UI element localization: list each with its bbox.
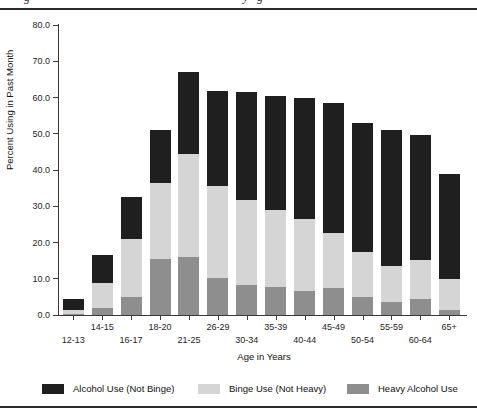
x-tick-label: 18-20 bbox=[140, 322, 180, 332]
y-tick-label: 60.0 bbox=[20, 93, 50, 103]
bar-segment bbox=[294, 291, 315, 315]
x-tick-label: 14-15 bbox=[82, 322, 122, 332]
y-tick-mark bbox=[53, 242, 58, 243]
bar-segment bbox=[352, 123, 373, 252]
y-axis-title: Percent Using in Past Month bbox=[4, 50, 15, 170]
dark-gray-swatch-icon bbox=[347, 384, 369, 394]
x-tick-mark bbox=[391, 316, 392, 320]
legend-item-heavy-alcohol: Heavy Alcohol Use bbox=[347, 383, 458, 394]
x-tick-label: 35-39 bbox=[256, 322, 296, 332]
x-tick-mark bbox=[305, 316, 306, 320]
y-tick-label: 0.0 bbox=[20, 310, 50, 320]
bar-segment bbox=[178, 154, 199, 257]
bar-segment bbox=[323, 103, 344, 234]
y-tick-mark bbox=[53, 133, 58, 134]
bar-segment bbox=[439, 310, 460, 315]
x-tick-label: 30-34 bbox=[227, 335, 267, 345]
y-tick-label: 10.0 bbox=[20, 274, 50, 284]
legend-label: Heavy Alcohol Use bbox=[378, 383, 458, 394]
bar-segment bbox=[121, 297, 142, 315]
stacked-bar-chart: 0.010.020.030.040.050.060.070.080.0 12-1… bbox=[0, 0, 477, 416]
bar-segment bbox=[236, 200, 257, 285]
bar-segment bbox=[92, 255, 113, 283]
bar-segment bbox=[323, 233, 344, 287]
x-tick-label: 60-64 bbox=[400, 335, 440, 345]
bar-segment bbox=[410, 260, 431, 300]
bar-segment bbox=[381, 302, 402, 315]
y-tick-mark bbox=[53, 170, 58, 171]
legend-label: Alcohol Use (Not Binge) bbox=[73, 383, 174, 394]
bar-segment bbox=[150, 259, 171, 315]
bar-segment bbox=[381, 130, 402, 266]
y-tick-mark bbox=[53, 315, 58, 316]
bar-segment bbox=[207, 186, 228, 278]
x-tick-mark bbox=[218, 316, 219, 320]
black-swatch-icon bbox=[42, 384, 64, 394]
x-tick-label: 12-13 bbox=[53, 335, 93, 345]
y-tick-label: 50.0 bbox=[20, 129, 50, 139]
bar-segment bbox=[63, 299, 84, 309]
x-axis-title: Age in Years bbox=[0, 351, 477, 362]
legend-label: Binge Use (Not Heavy) bbox=[229, 383, 326, 394]
light-gray-swatch-icon bbox=[198, 384, 220, 394]
x-tick-label: 50-54 bbox=[343, 335, 383, 345]
x-tick-label: 21-25 bbox=[169, 335, 209, 345]
x-tick-mark bbox=[276, 316, 277, 320]
bar-segment bbox=[410, 299, 431, 315]
bar-segment bbox=[207, 278, 228, 315]
bar-segment bbox=[294, 219, 315, 292]
bar-segment bbox=[121, 197, 142, 239]
y-tick-label: 70.0 bbox=[20, 56, 50, 66]
bottom-horizontal-rule bbox=[0, 406, 477, 408]
x-tick-label: 45-49 bbox=[314, 322, 354, 332]
bar-segment bbox=[178, 257, 199, 315]
bar-segment bbox=[352, 252, 373, 297]
x-tick-mark bbox=[131, 316, 132, 320]
x-tick-mark bbox=[420, 316, 421, 320]
y-axis-line bbox=[58, 24, 59, 316]
y-tick-mark bbox=[53, 278, 58, 279]
bar-segment bbox=[121, 239, 142, 297]
x-tick-mark bbox=[334, 316, 335, 320]
y-tick-label: 20.0 bbox=[20, 238, 50, 248]
chart-legend: Alcohol Use (Not Binge) Binge Use (Not H… bbox=[0, 383, 477, 397]
x-tick-mark bbox=[160, 316, 161, 320]
bar-segment bbox=[265, 287, 286, 315]
bar-segment bbox=[410, 135, 431, 259]
bar-segment bbox=[294, 98, 315, 219]
legend-item-binge-not-heavy: Binge Use (Not Heavy) bbox=[198, 383, 326, 394]
bar-segment bbox=[265, 96, 286, 210]
x-tick-mark bbox=[247, 316, 248, 320]
x-tick-mark bbox=[363, 316, 364, 320]
bar-segment bbox=[265, 210, 286, 287]
bar-segment bbox=[236, 92, 257, 200]
bar-segment bbox=[207, 91, 228, 186]
x-tick-label: 16-17 bbox=[111, 335, 151, 345]
bar-segment bbox=[92, 308, 113, 315]
x-tick-mark bbox=[449, 316, 450, 320]
y-tick-label: 40.0 bbox=[20, 165, 50, 175]
y-tick-label: 80.0 bbox=[20, 20, 50, 30]
y-tick-mark bbox=[53, 206, 58, 207]
y-tick-mark bbox=[53, 61, 58, 62]
x-tick-label: 65+ bbox=[429, 322, 469, 332]
x-tick-label: 26-29 bbox=[198, 322, 238, 332]
x-tick-mark bbox=[102, 316, 103, 320]
x-tick-label: 40-44 bbox=[285, 335, 325, 345]
legend-item-alcohol-not-binge: Alcohol Use (Not Binge) bbox=[42, 383, 174, 394]
x-tick-mark bbox=[73, 316, 74, 320]
bar-segment bbox=[150, 183, 171, 259]
bar-segment bbox=[178, 72, 199, 154]
bar-segment bbox=[92, 283, 113, 308]
bar-segment bbox=[352, 297, 373, 315]
x-tick-label: 55-59 bbox=[371, 322, 411, 332]
y-tick-mark bbox=[53, 97, 58, 98]
y-tick-label: 30.0 bbox=[20, 201, 50, 211]
y-tick-mark bbox=[53, 25, 58, 26]
bar-segment bbox=[63, 314, 84, 315]
bar-segment bbox=[439, 279, 460, 309]
x-tick-mark bbox=[189, 316, 190, 320]
bar-segment bbox=[439, 174, 460, 279]
bar-segment bbox=[63, 310, 84, 314]
bar-segment bbox=[150, 130, 171, 183]
